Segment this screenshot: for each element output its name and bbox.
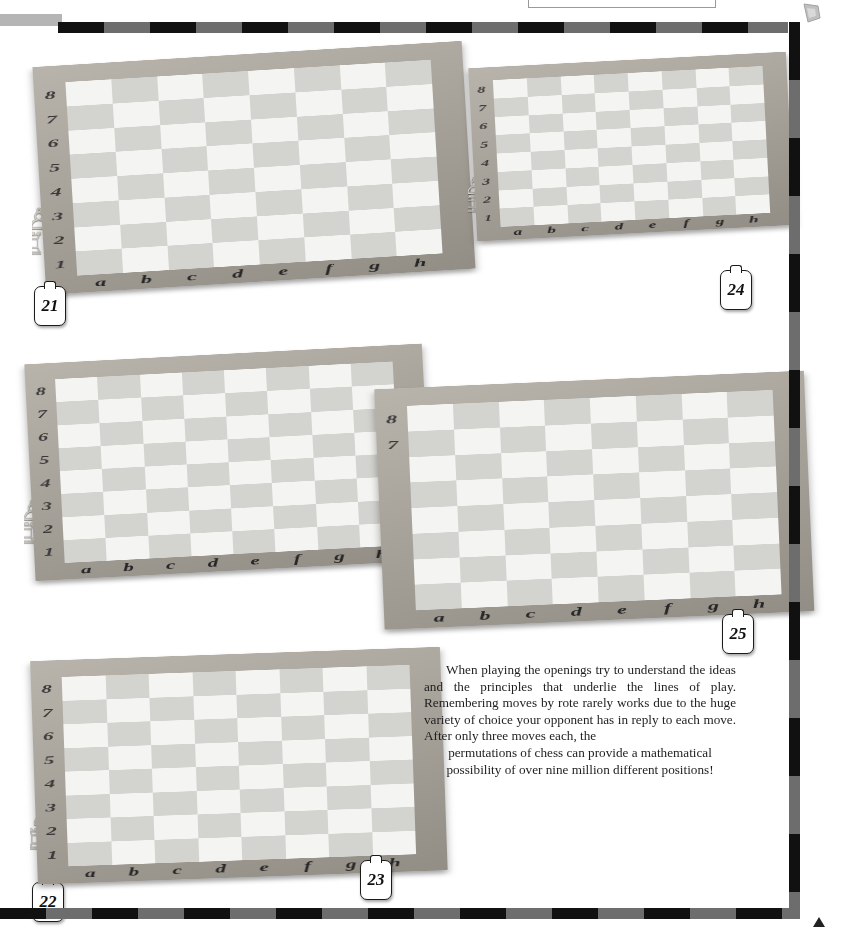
board-square <box>628 71 663 91</box>
board-square <box>61 492 104 517</box>
tag-nub <box>44 281 56 289</box>
rank-label-1: 1 <box>45 252 76 278</box>
rank-label-5: 5 <box>30 448 59 472</box>
board-square <box>664 125 699 145</box>
board-square <box>600 183 635 203</box>
board-number-23: 23 <box>368 870 385 890</box>
board-square <box>70 152 117 179</box>
board-square <box>196 789 240 814</box>
board-square <box>598 146 633 166</box>
board-square <box>65 79 112 106</box>
board-square <box>506 579 553 607</box>
board-square <box>341 87 388 114</box>
board-square <box>67 817 111 842</box>
rank-label-5: 5 <box>473 135 496 155</box>
book-page: OPENINGS abcdefgh87654321♜♝♚♝♜♟♛♟♟♟♞♞♟♞♗… <box>0 0 847 929</box>
board-square <box>257 213 304 240</box>
board-square <box>108 745 152 770</box>
rank-label-8: 8 <box>32 677 62 702</box>
board-frame: abcdefgh87654321 <box>468 52 795 242</box>
board-square <box>110 816 154 841</box>
board-playing-surface <box>65 60 442 276</box>
board-square <box>166 219 213 246</box>
board-square <box>280 692 324 717</box>
board-square <box>388 108 435 135</box>
file-label-d: d <box>553 603 599 620</box>
board-square <box>117 173 164 200</box>
board-square <box>294 65 341 92</box>
board-square <box>327 785 371 810</box>
board-square <box>141 396 184 421</box>
board-square <box>231 506 274 531</box>
file-label-b: b <box>462 607 508 624</box>
board-square <box>109 792 153 817</box>
board-square <box>532 187 567 207</box>
board-square <box>458 530 505 558</box>
board-square <box>598 575 645 603</box>
board-square <box>213 240 260 267</box>
board-square <box>163 171 210 198</box>
board-square <box>667 180 702 200</box>
rank-label-5: 5 <box>34 748 64 773</box>
board-squares <box>493 66 770 227</box>
rank-label-1: 1 <box>477 209 500 229</box>
board-square <box>107 721 151 746</box>
board-square <box>118 198 165 225</box>
board-square <box>160 122 207 149</box>
board-square <box>413 532 460 560</box>
board-square <box>499 188 534 208</box>
board-square <box>328 832 372 857</box>
board-square <box>66 794 110 819</box>
board-square <box>457 504 504 532</box>
board-frame: abcdefgh87654321 <box>32 41 475 295</box>
rank-label-3 <box>382 534 413 561</box>
board-square <box>633 181 668 201</box>
article-paragraph-text: When playing the openings try to underst… <box>424 662 736 743</box>
board-square <box>211 216 258 243</box>
board-frame: abcdefgh87 <box>374 371 814 630</box>
board-square <box>528 95 563 115</box>
board-square <box>254 165 301 192</box>
board-25: abcdefgh87♞♗♝♚♘♘♛♝♟♜♟♞♟♙♙♕♙♙♙♗♔♙ 25 <box>352 352 822 632</box>
board-square <box>205 119 252 146</box>
board-square <box>309 387 352 412</box>
board-square <box>67 104 114 131</box>
board-square <box>505 553 552 581</box>
board-square <box>501 451 548 479</box>
board-square <box>255 189 302 216</box>
board-square <box>367 688 411 713</box>
board-square <box>371 807 415 832</box>
board-square <box>599 165 634 185</box>
board-square <box>630 108 665 128</box>
file-label-e: e <box>234 553 277 569</box>
rank-label-1: 1 <box>38 843 68 868</box>
rank-label-6: 6 <box>472 117 495 137</box>
board-square <box>730 84 765 104</box>
board-square <box>494 97 529 117</box>
board-square <box>734 543 781 571</box>
board-square <box>270 435 313 460</box>
board-square <box>150 720 194 745</box>
board-square <box>408 429 455 457</box>
board-squares <box>62 665 416 867</box>
border-strip-bottom <box>0 908 789 919</box>
board-square <box>601 202 636 222</box>
file-label-h: h <box>397 254 444 271</box>
board-squares <box>55 361 402 563</box>
board-square <box>225 391 268 416</box>
board-square <box>301 186 348 213</box>
file-label-b: b <box>534 224 568 237</box>
board-square <box>632 145 667 165</box>
rank-label-7: 7 <box>33 701 63 726</box>
board-square <box>593 473 640 501</box>
board-square <box>272 481 315 506</box>
board-square <box>497 152 532 172</box>
rank-label-6 <box>378 457 409 484</box>
board-square <box>595 524 642 552</box>
file-label-a: a <box>501 226 535 239</box>
board-square <box>699 141 734 161</box>
board-square <box>281 715 325 740</box>
board-number-tag-25: 25 <box>722 614 754 654</box>
board-square <box>394 205 441 232</box>
board-square <box>344 135 391 162</box>
